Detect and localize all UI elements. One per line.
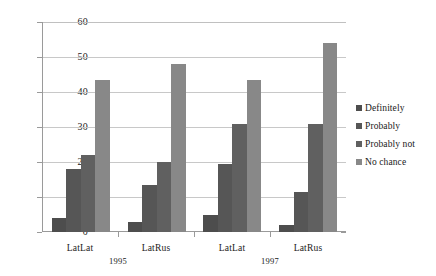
x-axis-group-label: 1997 (244, 257, 296, 266)
legend-swatch-icon (356, 141, 362, 147)
bar (128, 222, 143, 233)
legend-label: Probably not (365, 139, 415, 149)
bar (81, 155, 96, 232)
bar (157, 162, 172, 232)
bar (95, 80, 110, 232)
bar (279, 225, 294, 232)
legend-item[interactable]: Probably (356, 117, 436, 135)
y-axis-tick-mark-right (341, 232, 346, 233)
bar (247, 80, 262, 232)
bars-container (43, 22, 346, 232)
x-axis-category-label: LatRus (124, 243, 188, 253)
legend-label: Probably (365, 121, 400, 131)
legend-label: Definitely (365, 103, 405, 113)
legend-label: No chance (365, 157, 406, 167)
bar (171, 64, 186, 232)
bar (203, 215, 218, 233)
bar (66, 169, 81, 232)
legend-item[interactable]: Definitely (356, 99, 436, 117)
y-axis-tick-mark (37, 232, 42, 233)
bar (142, 185, 157, 232)
bar (218, 164, 233, 232)
legend-swatch-icon (356, 123, 362, 129)
x-axis-group-separator (194, 232, 195, 237)
bar (323, 43, 338, 232)
bar (294, 192, 309, 232)
legend-swatch-icon (356, 159, 362, 165)
legend-item[interactable]: Probably not (356, 135, 436, 153)
legend-swatch-icon (356, 105, 362, 111)
x-axis-group-label: 1995 (92, 257, 144, 266)
x-axis-category-label: LatLat (48, 243, 112, 253)
chart-legend: DefinitelyProbablyProbably notNo chance (356, 99, 436, 171)
bar (52, 218, 67, 232)
x-axis-category-label: LatLat (200, 243, 264, 253)
bar-chart: 60 50 40 30 20 10 0 LatLat (0, 0, 436, 276)
bar (308, 124, 323, 233)
bar (232, 124, 247, 233)
x-axis-group-separator (270, 232, 271, 237)
x-axis-category-label: LatRus (276, 243, 340, 253)
legend-item[interactable]: No chance (356, 153, 436, 171)
x-axis-group-separator (118, 232, 119, 237)
